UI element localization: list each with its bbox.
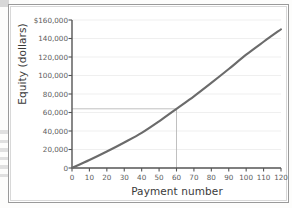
y-axis-title: Equity (dollars): [16, 4, 28, 124]
y-tick-label: 0: [6, 164, 68, 173]
equity-line-chart: 020,00040,00060,00080,000100,000120,0001…: [0, 0, 292, 208]
y-tick-label: 40,000: [6, 127, 68, 136]
x-axis-title: Payment number: [72, 185, 282, 197]
chart-page: 020,00040,00060,00080,000100,000120,0001…: [0, 0, 292, 208]
x-tick-label: 120: [269, 173, 292, 182]
y-tick-label: 20,000: [6, 145, 68, 154]
reference-lines: [72, 109, 177, 168]
